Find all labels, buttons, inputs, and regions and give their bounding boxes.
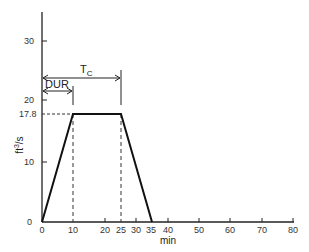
svg-text:60: 60 xyxy=(225,225,235,235)
x-tick-labels: 0 10 20 25 30 35 40 50 60 70 80 xyxy=(39,225,298,235)
svg-text:50: 50 xyxy=(194,225,204,235)
svg-text:40: 40 xyxy=(163,225,173,235)
y-axis-label: ft3/s xyxy=(13,136,25,153)
svg-text:17.8: 17.8 xyxy=(19,109,37,119)
svg-text:30: 30 xyxy=(24,36,34,46)
hydrograph-chart: 30 20 17.8 10 0 0 10 20 25 30 35 40 50 6… xyxy=(0,0,309,252)
dur-label: DUR xyxy=(45,78,69,90)
svg-text:35: 35 xyxy=(146,225,156,235)
svg-text:0: 0 xyxy=(39,225,44,235)
svg-text:20: 20 xyxy=(24,95,34,105)
svg-text:70: 70 xyxy=(257,225,267,235)
y-tick-labels: 30 20 17.8 10 0 xyxy=(19,36,37,227)
hydrograph-line xyxy=(42,114,152,222)
y-ticks xyxy=(42,41,47,162)
x-axis-label: min xyxy=(160,235,176,246)
svg-text:10: 10 xyxy=(24,157,34,167)
svg-text:30: 30 xyxy=(131,225,141,235)
svg-text:0: 0 xyxy=(27,217,32,227)
tc-label: TC xyxy=(80,63,93,78)
svg-text:80: 80 xyxy=(288,225,298,235)
svg-text:10: 10 xyxy=(68,225,78,235)
svg-text:25: 25 xyxy=(116,225,126,235)
svg-text:20: 20 xyxy=(100,225,110,235)
